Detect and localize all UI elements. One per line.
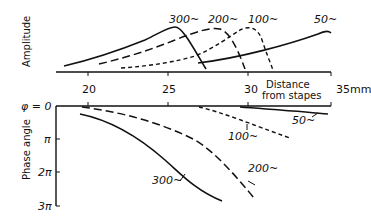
phi0-label: φ = 0 (21, 100, 51, 113)
phase-curve-300 (80, 114, 222, 201)
amp-label-200: 200~ (208, 13, 238, 26)
phase-label-300: 300~ (152, 174, 182, 187)
amp-label-300: 300~ (169, 13, 199, 26)
phase-axis-label: Phase angle (21, 119, 32, 180)
amp-curve-100 (121, 28, 273, 70)
three-pi-label: 3π (38, 200, 52, 213)
phase-label-50: 50~ (292, 114, 315, 127)
phase-label-100: 100~ (228, 130, 258, 143)
amp-curve-300 (64, 27, 206, 69)
amp-label-100: 100~ (248, 13, 278, 26)
two-pi-label: 2π (38, 166, 52, 179)
amplitude-axis-label: Amplitude (21, 16, 32, 67)
tick-label-30: 30 (244, 83, 258, 96)
traveling-wave-figure: Amplitude 300~ 200~ 100~ 50~ 20 25 30 35… (0, 0, 371, 219)
tick-label-25: 25 (162, 83, 176, 96)
tick-label-35mm: 35mm (336, 83, 371, 96)
pi-label: π (44, 133, 51, 146)
amplitude-panel (56, 27, 331, 76)
distance-label-line1: Distance (266, 79, 310, 90)
phase-curve-50 (240, 107, 328, 114)
distance-label-line2: from stapes (262, 90, 321, 101)
phase-label-200: 200~ (248, 162, 278, 175)
amp-label-50: 50~ (314, 13, 337, 26)
phase-panel (56, 102, 331, 206)
tick-label-20: 20 (82, 83, 96, 96)
